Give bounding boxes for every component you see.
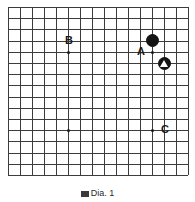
square-icon bbox=[81, 191, 89, 197]
grid-line-horizontal bbox=[8, 97, 188, 98]
label-C: C bbox=[161, 124, 169, 135]
go-diagram-figure: BAC Dia. 1 bbox=[0, 0, 195, 202]
grid-line-horizontal bbox=[8, 175, 188, 176]
grid-line-vertical bbox=[128, 7, 129, 175]
grid-line-vertical bbox=[44, 7, 45, 175]
grid-line-horizontal bbox=[8, 108, 188, 109]
grid-line-vertical bbox=[8, 7, 9, 175]
hoshi-lower-right-icon bbox=[151, 129, 154, 132]
black-stone-upper-right[interactable] bbox=[146, 34, 159, 47]
grid-line-horizontal bbox=[8, 153, 188, 154]
grid-line-vertical bbox=[104, 7, 105, 175]
grid-line-vertical bbox=[92, 7, 93, 175]
grid-line-vertical bbox=[68, 7, 69, 175]
grid-line-horizontal bbox=[8, 7, 188, 8]
grid-line-horizontal bbox=[8, 141, 188, 142]
grid-line-horizontal bbox=[8, 119, 188, 120]
hoshi-lower-left-icon bbox=[67, 129, 70, 132]
grid-line-horizontal bbox=[8, 29, 188, 30]
go-board[interactable]: BAC bbox=[0, 0, 195, 186]
grid-line-horizontal bbox=[8, 41, 188, 42]
label-A: A bbox=[137, 46, 145, 57]
grid-line-vertical bbox=[116, 7, 117, 175]
grid-line-vertical bbox=[32, 7, 33, 175]
grid-line-vertical bbox=[80, 7, 81, 175]
grid-line-vertical bbox=[140, 7, 141, 175]
label-B: B bbox=[65, 35, 73, 46]
figure-caption: Dia. 1 bbox=[0, 188, 195, 199]
grid-line-horizontal bbox=[8, 18, 188, 19]
grid-line-vertical bbox=[152, 7, 153, 175]
hoshi-upper-left-icon bbox=[67, 51, 70, 54]
triangle-marker-icon bbox=[160, 60, 168, 67]
grid-line-vertical bbox=[56, 7, 57, 175]
grid-line-vertical bbox=[176, 7, 177, 175]
grid-line-horizontal bbox=[8, 74, 188, 75]
caption-text: Dia. 1 bbox=[91, 188, 115, 198]
grid-line-horizontal bbox=[8, 164, 188, 165]
grid-line-vertical bbox=[188, 7, 189, 175]
grid-line-horizontal bbox=[8, 85, 188, 86]
grid-line-horizontal bbox=[8, 52, 188, 53]
grid-line-vertical bbox=[20, 7, 21, 175]
hoshi-upper-right-icon bbox=[151, 51, 154, 54]
grid-line-vertical bbox=[164, 7, 165, 175]
